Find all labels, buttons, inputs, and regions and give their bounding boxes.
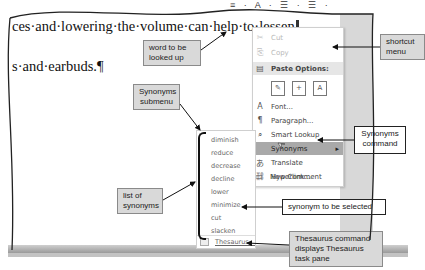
thesaurus-button[interactable]: Thesaurus... (200, 238, 255, 246)
callout-list-of-synonyms: list of synonyms (117, 188, 163, 214)
paste-text-only-icon[interactable]: A (313, 81, 327, 96)
menu-item-smart-lookup[interactable]: ⌕ Smart Lookup (253, 128, 343, 141)
synonym-item[interactable]: decrease (211, 162, 241, 170)
menu-paste-options-header: ▤ Paste Options: (253, 62, 343, 75)
menu-item-copy[interactable]: ⎘ Copy (253, 46, 343, 59)
paste-options-icons: ✎ + A (271, 81, 327, 96)
callout-shortcut-menu: shortcut menu (380, 34, 425, 60)
synonym-item[interactable]: decline (211, 175, 234, 183)
document-text-line-2[interactable]: s·and·earbuds.¶ (12, 58, 104, 75)
synonym-item[interactable]: reduce (211, 149, 233, 157)
synonym-item[interactable]: lower (211, 188, 229, 196)
menu-item-synonyms[interactable]: Synonyms ▸ (253, 142, 343, 155)
synonyms-brace (198, 132, 206, 240)
menu-item-paragraph[interactable]: ¶ Paragraph... (253, 114, 343, 127)
clipboard-icon: ▤ (253, 64, 267, 73)
menu-item-font[interactable]: A Font... (253, 100, 343, 113)
mini-toolbar[interactable]: ≡ · A · ☰ · ☰ · (230, 0, 350, 12)
copy-icon: ⎘ (253, 48, 267, 58)
callout-thesaurus-command: Thesaurus command displays Thesaurus tas… (289, 231, 383, 267)
paste-keep-source-icon[interactable]: ✎ (271, 81, 285, 96)
shortcut-menu: ✂ Cut ⎘ Copy ▤ Paste Options: ✎ + A A Fo… (252, 27, 344, 187)
synonym-item-minimize[interactable]: minimize (211, 201, 241, 209)
callout-synonyms-submenu: Synonyms submenu (133, 84, 180, 110)
scissors-icon: ✂ (253, 33, 267, 42)
callout-word-to-be-looked-up: word to be looked up (143, 40, 201, 66)
synonym-item[interactable]: diminish (211, 136, 239, 144)
menu-item-cut[interactable]: ✂ Cut (253, 31, 343, 44)
menu-item-new-comment[interactable]: ▭ New Comment (252, 170, 342, 183)
paragraph-icon: ¶ (253, 116, 267, 125)
synonym-item[interactable]: cut (211, 214, 221, 222)
text-line-2: s·and·earbuds.¶ (12, 58, 104, 74)
callout-synonyms-command: Synonyms command (354, 126, 406, 154)
submenu-arrow-icon: ▸ (335, 145, 339, 153)
font-icon: A (253, 102, 267, 111)
paste-merge-formatting-icon[interactable]: + (292, 81, 306, 96)
menu-item-translate[interactable]: あ Translate (253, 156, 343, 169)
callout-synonym-to-be-selected: synonym to be selected (282, 199, 386, 215)
synonym-item[interactable]: slacken (211, 227, 235, 235)
